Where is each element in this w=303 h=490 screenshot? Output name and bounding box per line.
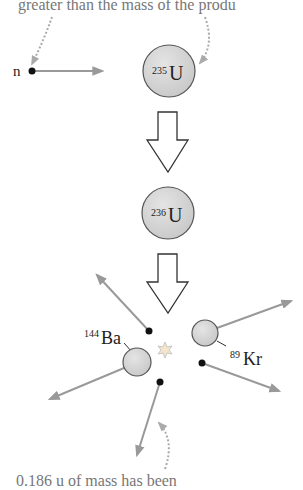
nucleus-u236: 236 U <box>142 187 194 239</box>
kr-mass: 89 <box>230 349 240 360</box>
u235-mass: 235 <box>152 65 167 76</box>
neutron-arrow-down <box>137 382 160 455</box>
ba-arrow <box>50 368 124 399</box>
top-caption: greater than the mass of the produ <box>18 0 236 14</box>
neutron-arrow-lower-right <box>202 363 279 391</box>
fission-diagram: greater than the mass of the produ n 235… <box>0 0 303 490</box>
ba-symbol: Ba <box>101 328 121 348</box>
reaction-arrow-2 <box>147 254 188 313</box>
dotted-pointer-u235 <box>200 17 209 63</box>
u236-mass: 236 <box>151 207 166 218</box>
kr-arrow <box>217 301 291 328</box>
energy-burst-icon <box>158 342 172 358</box>
dotted-pointer-mass-defect <box>159 423 169 469</box>
neutron-dot-2 <box>199 360 206 367</box>
u235-symbol: U <box>169 62 184 84</box>
neutron-dot <box>29 68 36 75</box>
dotted-pointer-neutron <box>32 17 52 64</box>
nucleus-ba144: 144 Ba <box>84 328 151 376</box>
neutron-label: n <box>13 63 21 79</box>
u236-symbol: U <box>168 204 183 226</box>
bottom-caption: 0.186 u of mass has been <box>16 472 177 489</box>
neutron-dot-3 <box>157 379 164 386</box>
neutron-dot-1 <box>146 328 153 335</box>
nucleus-u235: 235 U <box>143 45 195 97</box>
ba-mass: 144 <box>84 328 99 339</box>
neutron-arrow-upper-left <box>97 275 149 331</box>
reaction-arrow-1 <box>147 112 188 172</box>
kr-symbol: Kr <box>243 349 262 369</box>
